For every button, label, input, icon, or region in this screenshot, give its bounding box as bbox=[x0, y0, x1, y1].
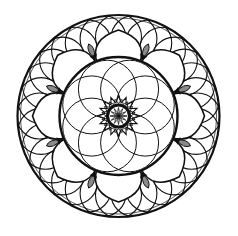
mandala-canvas bbox=[0, 0, 238, 236]
mandala-artwork bbox=[0, 0, 238, 236]
